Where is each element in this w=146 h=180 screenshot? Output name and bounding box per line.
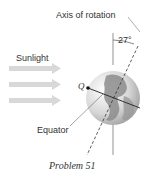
diagram-graphics <box>0 0 146 180</box>
caption: Problem 51 <box>49 160 96 171</box>
axis-label: Axis of rotation <box>56 10 116 20</box>
point-q-label: Q <box>78 81 85 91</box>
diagram: Axis of rotation 27° Sunlight Q Equator … <box>0 0 146 180</box>
angle-label: 27° <box>118 35 132 45</box>
sunlight-arrows <box>9 63 61 106</box>
sunlight-label: Sunlight <box>16 53 49 63</box>
equator-label: Equator <box>37 125 69 135</box>
